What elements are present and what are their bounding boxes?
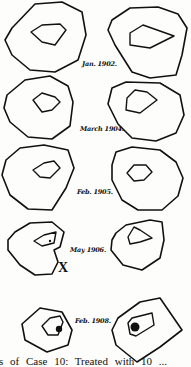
- date-label-jan-1902: Jan. 1902.: [82, 60, 117, 68]
- figure-drawings: [0, 0, 191, 367]
- left-inner-row3: [33, 161, 60, 178]
- right-outline-row3: [112, 147, 183, 210]
- left-inner-row5: [42, 316, 63, 335]
- x-marker: X: [58, 260, 68, 276]
- left-outline-row3: [2, 145, 74, 210]
- date-label-may-1906: May 1906.: [70, 246, 106, 254]
- right-inner-row2: [126, 90, 157, 113]
- small-dot-row4: [49, 240, 51, 242]
- figure-caption: ls of Case 10: Treated with 10 ...: [0, 355, 167, 367]
- left-inner-row4: [34, 232, 56, 246]
- right-inner-row4: [128, 227, 152, 244]
- left-outline-row4: [8, 222, 64, 275]
- dark-spot-row5-left: [56, 326, 62, 332]
- right-outline-row4: [111, 220, 164, 270]
- left-outline-row1: [5, 2, 86, 72]
- left-inner-row2: [33, 93, 60, 112]
- date-label-feb-1905: Feb. 1905.: [77, 188, 113, 196]
- right-outline-row1: [108, 7, 187, 78]
- date-label-march-1904: March 1904.: [80, 125, 124, 133]
- right-inner-row1: [130, 25, 174, 48]
- left-inner-row1: [31, 24, 66, 45]
- dark-spot-row5-right: [131, 323, 140, 332]
- date-label-feb-1908: Feb. 1908.: [75, 317, 111, 325]
- left-outline-row5: [22, 308, 72, 352]
- right-inner-row3: [127, 165, 152, 181]
